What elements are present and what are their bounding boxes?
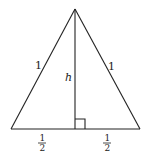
left-side-label: 1	[35, 59, 42, 72]
left-side	[11, 9, 75, 129]
left-half-denominator: 2	[40, 143, 46, 153]
right-half-fraction: 1 2	[103, 133, 111, 153]
right-side-label: 1	[108, 60, 115, 73]
height-label: h	[65, 71, 72, 84]
right-half-numerator: 1	[105, 133, 111, 143]
right-angle-marker	[75, 119, 85, 129]
triangle-diagram: 1 1 h 1 2 1 2	[0, 0, 151, 158]
left-half-numerator: 1	[40, 133, 46, 143]
right-half-denominator: 2	[105, 143, 111, 153]
left-half-fraction: 1 2	[38, 133, 46, 153]
